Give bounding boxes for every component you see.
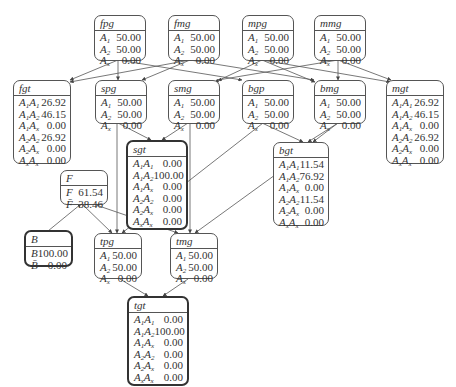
node-row: Ax0.00 [100, 273, 137, 285]
node-row: Ax0.00 [248, 55, 289, 67]
node-row: A150.00 [320, 97, 361, 109]
node-row: Ax0.00 [320, 120, 361, 132]
node-row: A1Ax0.00 [133, 181, 182, 193]
node-title: bgp [243, 81, 293, 96]
node-row: A2Ax0.00 [133, 204, 182, 216]
node-fpg[interactable]: fpg A150.00 A250.00 Ax0.00 [94, 15, 146, 61]
node-title: F [61, 171, 107, 186]
node-title: bgt [274, 143, 328, 158]
node-mgt[interactable]: mgt A1A126.92 A1A246.15 A1Ax0.00 A2A226.… [386, 80, 444, 164]
node-row: AxAx0.00 [133, 216, 182, 228]
node-title: fpg [95, 16, 145, 31]
node-row: AxAx0.00 [279, 217, 324, 229]
node-row: AxAx0.00 [134, 372, 183, 384]
node-row: Ax0.00 [101, 120, 142, 132]
node-row: AxAx0.00 [19, 155, 66, 167]
node-row: A1Ax0.00 [19, 120, 66, 132]
node-title: tmg [171, 234, 217, 249]
node-row: Ax0.00 [248, 120, 289, 132]
node-row: Ax0.00 [320, 55, 361, 67]
node-title: sgt [128, 142, 186, 157]
node-title: tgt [129, 298, 187, 313]
node-row: A150.00 [248, 32, 289, 44]
node-fmg[interactable]: fmg A150.00 A250.00 Ax0.00 [168, 15, 220, 61]
node-mmg[interactable]: mmg A150.00 A250.00 Ax0.00 [314, 15, 366, 61]
node-fgt[interactable]: fgt A1A126.92 A1A246.15 A1Ax0.00 A2A226.… [13, 80, 71, 164]
node-row: A150.00 [248, 97, 289, 109]
node-row: AxAx0.00 [392, 155, 439, 167]
node-bgp[interactable]: bgp A150.00 A250.00 Ax0.00 [242, 80, 294, 124]
node-row: A1A126.92 [19, 97, 66, 109]
node-mpg[interactable]: mpg A150.00 A250.00 Ax0.00 [242, 15, 294, 61]
node-tgt[interactable]: tgt A1A10.00 A1A2100.00 A1Ax0.00 A2A20.0… [127, 296, 189, 386]
node-spg[interactable]: spg A150.00 A250.00 Ax0.00 [95, 80, 147, 124]
node-sgt[interactable]: sgt A1A10.00 A1A2100.00 A1Ax0.00 A2A20.0… [126, 140, 188, 230]
node-row: A150.00 [176, 250, 213, 262]
node-title: smg [169, 81, 219, 96]
node-row: A1A10.00 [134, 314, 183, 326]
node-tmg[interactable]: tmg A150.00 A250.00 Ax0.00 [170, 233, 218, 279]
node-title: bmg [315, 81, 365, 96]
node-row: A2Ax0.00 [392, 143, 439, 155]
node-row: A2Ax0.00 [19, 143, 66, 155]
node-bgt[interactable]: bgt A1A111.54 A1A276.92 A1Ax0.00 A2A211.… [273, 142, 329, 226]
node-row: A1Ax0.00 [279, 182, 324, 194]
node-title: B [26, 232, 71, 247]
node-row: B100.00 [31, 248, 67, 260]
node-title: fgt [14, 81, 70, 96]
node-tpg[interactable]: tpg A150.00 A250.00 Ax0.00 [94, 233, 142, 279]
node-row: A1A10.00 [133, 158, 182, 170]
node-smg[interactable]: smg A150.00 A250.00 Ax0.00 [168, 80, 220, 124]
node-row: B̄0.00 [31, 260, 67, 272]
node-row: A2Ax0.00 [134, 360, 183, 372]
node-F[interactable]: F F61.54 F̄38.46 [60, 170, 108, 205]
node-title: mpg [243, 16, 293, 31]
node-B[interactable]: B B100.00 B̄0.00 [24, 230, 73, 267]
node-row: A150.00 [100, 32, 141, 44]
node-row: A1A111.54 [279, 159, 324, 171]
node-row: F61.54 [66, 187, 103, 199]
node-row: Ax0.00 [176, 273, 213, 285]
node-row: A2Ax0.00 [279, 205, 324, 217]
node-row: Ax0.00 [174, 55, 215, 67]
node-row: A1Ax0.00 [134, 337, 183, 349]
node-row: A150.00 [320, 32, 361, 44]
node-bmg[interactable]: bmg A150.00 A250.00 Ax0.00 [314, 80, 366, 124]
node-row: A150.00 [100, 250, 137, 262]
node-title: mmg [315, 16, 365, 31]
node-row: A1Ax0.00 [392, 120, 439, 132]
node-title: mgt [387, 81, 443, 96]
node-row: A150.00 [101, 97, 142, 109]
node-row: A150.00 [174, 32, 215, 44]
node-row: Ax0.00 [100, 55, 141, 67]
node-title: spg [96, 81, 146, 96]
node-row: A150.00 [174, 97, 215, 109]
node-title: fmg [169, 16, 219, 31]
node-row: A1A126.92 [392, 97, 439, 109]
node-row: Ax0.00 [174, 120, 215, 132]
node-row: F̄38.46 [66, 199, 103, 211]
node-title: tpg [95, 234, 141, 249]
